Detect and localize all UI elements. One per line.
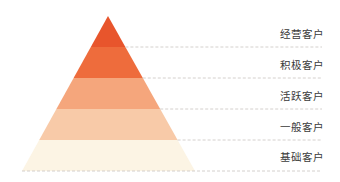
pyramid-level-general [39, 109, 177, 140]
level-label-general-customers: 一般客户 [268, 121, 324, 133]
level-label-active-customers: 活跃客户 [268, 90, 324, 102]
level-label-positive-customers: 积极客户 [268, 59, 324, 71]
pyramid-level-operating [91, 16, 126, 47]
pyramid-level-basic [22, 140, 195, 171]
pyramid-level-active [56, 78, 160, 109]
pyramid-level-positive [74, 47, 143, 78]
level-label-basic-customers: 基础客户 [268, 151, 324, 163]
level-label-operating-customers: 经营客户 [268, 28, 324, 40]
